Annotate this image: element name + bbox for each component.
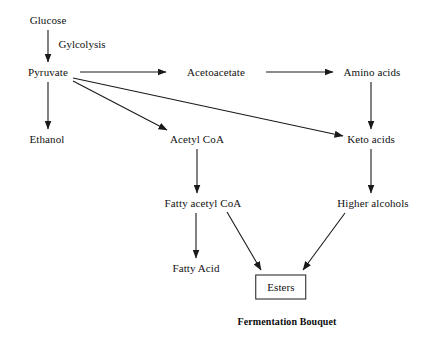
node-glucose: Glucose xyxy=(30,15,67,26)
arrow-pyruvate-to-keto-acids xyxy=(73,78,343,136)
node-fatty-acid: Fatty Acid xyxy=(172,263,219,274)
arrow-higher-alcohols-to-esters xyxy=(303,213,345,270)
diagram-edges xyxy=(0,0,426,337)
edge-label-glycolysis: Gylcolysis xyxy=(58,39,105,50)
diagram-caption: Fermentation Bouquet xyxy=(238,316,337,327)
node-esters: Esters xyxy=(255,275,306,300)
arrow-fatty-acetyl-coa-to-esters xyxy=(227,212,261,270)
node-pyruvate: Pyruvate xyxy=(28,67,68,78)
node-fatty-acetyl-coa: Fatty acetyl CoA xyxy=(165,198,242,209)
node-ethanol: Ethanol xyxy=(30,134,65,145)
node-higher-alcohols: Higher alcohols xyxy=(337,198,408,209)
node-acetyl-coa: Acetyl CoA xyxy=(170,134,224,145)
node-acetoacetate: Acetoacetate xyxy=(187,67,245,78)
node-amino-acids: Amino acids xyxy=(343,67,400,78)
diagram-canvas: GlucosePyruvateEthanolAcetoacetateAmino … xyxy=(0,0,426,337)
node-keto-acids: Keto acids xyxy=(347,134,395,145)
